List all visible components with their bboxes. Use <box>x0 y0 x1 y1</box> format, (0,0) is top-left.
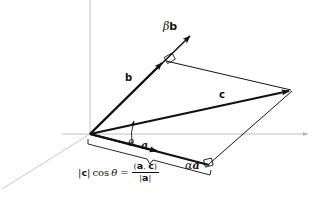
label-c: c <box>219 90 225 100</box>
label-theta: θ <box>128 138 134 148</box>
vectors-group <box>90 36 289 165</box>
formula-fraction: (a, c) |a| <box>132 161 159 184</box>
formula-numerator: (a, c) <box>132 161 159 172</box>
formula-equals: = <box>120 167 128 178</box>
vector-projection-figure: βb b c a αa θ |c|cosθ= (a, c) |a| <box>0 0 331 212</box>
formula-cos: cos <box>92 167 109 178</box>
construction-line-beta-b-to-c-tip <box>166 61 291 90</box>
numerator-close-paren: ) <box>154 162 157 171</box>
label-alpha-a: αa <box>185 160 200 171</box>
label-beta-b-vector: b <box>169 20 177 33</box>
formula-denominator: |a| <box>132 172 159 184</box>
denominator-bar-close: | <box>148 174 151 183</box>
label-a: a <box>141 140 148 151</box>
formula-bar-close: | <box>87 167 90 178</box>
numerator-comma: , <box>143 162 146 171</box>
right-angle-at-beta-b <box>164 53 175 64</box>
label-b: b <box>125 73 132 83</box>
z-axis <box>2 134 90 189</box>
label-alpha-a-vector: a <box>192 159 199 172</box>
label-beta-b: βb <box>163 21 177 32</box>
projection-formula: |c|cosθ= (a, c) |a| <box>78 161 159 184</box>
construction-line-alpha-a-to-c-tip <box>209 91 292 164</box>
vector-c <box>90 91 289 134</box>
formula-theta: θ <box>111 167 117 178</box>
